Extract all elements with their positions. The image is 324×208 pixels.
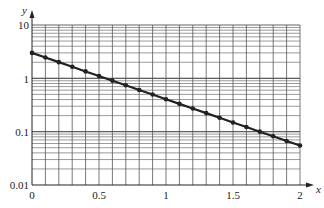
- data-point: [110, 78, 115, 83]
- data-point: [177, 102, 182, 107]
- data-point: [217, 115, 222, 120]
- x-axis-arrow-icon: [306, 183, 314, 188]
- data-point: [137, 88, 142, 93]
- y-tick-1: 1: [24, 73, 30, 85]
- data-point: [244, 125, 249, 130]
- y-axis-label: y: [21, 4, 27, 16]
- y-tick-0.01: 0.01: [10, 179, 29, 191]
- data-point: [70, 64, 75, 69]
- data-point: [97, 74, 102, 79]
- data-point: [231, 120, 236, 125]
- data-point: [83, 69, 88, 74]
- x-tick-2: 2: [297, 189, 303, 201]
- data-point: [204, 111, 209, 116]
- data-point: [271, 134, 276, 139]
- y-tick-10: 10: [18, 19, 30, 31]
- data-point: [43, 55, 48, 60]
- data-point: [284, 139, 289, 144]
- y-axis-arrow-icon: [30, 10, 35, 18]
- data-point: [164, 97, 169, 102]
- data-point: [150, 92, 155, 97]
- x-axis-label: x: [315, 183, 321, 195]
- x-tick-1.5: 1.5: [226, 189, 240, 201]
- data-point: [57, 60, 62, 65]
- data-point: [124, 83, 129, 88]
- data-point: [191, 106, 196, 111]
- data-point: [298, 143, 303, 148]
- x-tick-1: 1: [163, 189, 169, 201]
- y-tick-0.1: 0.1: [15, 126, 29, 138]
- grid-lines: [32, 25, 300, 185]
- data-point: [258, 129, 263, 134]
- data-point: [30, 51, 35, 56]
- semilog-chart: x y 0 0.5 1 1.5 2 0.01 0.1 1 10: [0, 0, 324, 208]
- x-tick-0: 0: [29, 189, 35, 201]
- x-tick-0.5: 0.5: [92, 189, 106, 201]
